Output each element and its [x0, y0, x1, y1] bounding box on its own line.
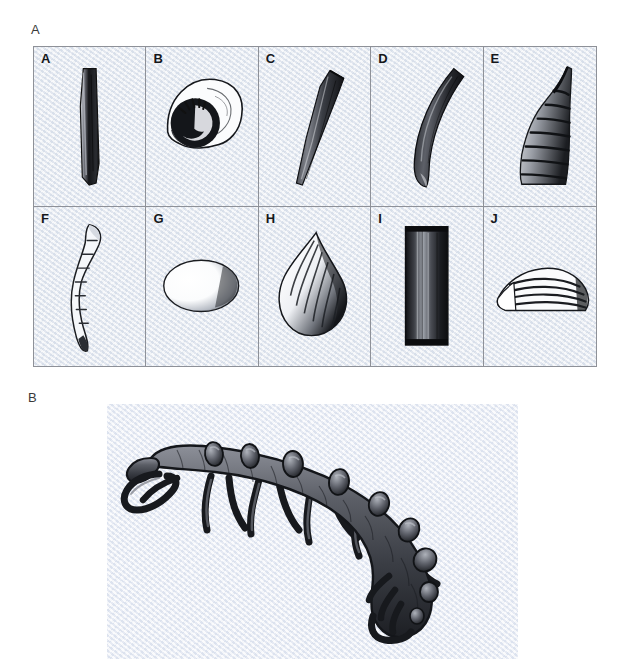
fossil-cell-letter-j: J — [491, 211, 498, 226]
fossil-cell-letter-b: B — [153, 51, 162, 66]
fossil-cell-j: J — [484, 207, 596, 367]
fossil-grid: A B — [34, 47, 596, 366]
fossil-cell-i: I — [371, 207, 483, 367]
lobopodian-reconstruction-panel — [107, 404, 518, 659]
fossil-cell-letter-c: C — [266, 51, 275, 66]
lobopodian-illustration — [107, 404, 518, 659]
fossil-cell-b: B — [146, 47, 258, 207]
fossil-cell-c: C — [259, 47, 371, 207]
fossil-illustration-d — [371, 47, 482, 205]
fossil-illustration-b — [146, 47, 257, 205]
fossil-illustration-c — [259, 47, 370, 205]
fossil-illustration-e — [484, 47, 596, 206]
fossil-illustration-g — [146, 207, 257, 365]
fossil-illustration-a — [34, 47, 145, 205]
figure-panel-label-a: A — [31, 22, 40, 37]
fossil-cell-h: H — [259, 207, 371, 367]
fossil-cell-g: G — [146, 207, 258, 367]
fossil-cell-letter-h: H — [266, 211, 275, 226]
fossil-cell-letter-f: F — [41, 211, 49, 226]
fossil-cell-letter-d: D — [378, 51, 387, 66]
fossil-cell-letter-g: G — [153, 211, 163, 226]
fossil-cell-a: A — [34, 47, 146, 207]
fossil-cell-f: F — [34, 207, 146, 367]
fossil-illustration-j — [484, 207, 596, 366]
fossil-cell-letter-a: A — [41, 51, 50, 66]
fossil-cell-e: E — [484, 47, 596, 207]
fossil-cell-d: D — [371, 47, 483, 207]
fossil-illustration-f — [34, 207, 145, 365]
fossil-cell-letter-e: E — [491, 51, 500, 66]
fossil-cell-letter-i: I — [378, 211, 382, 226]
figure-panel-label-b: B — [28, 390, 37, 405]
fossil-plate-panel: A B — [33, 46, 597, 367]
fossil-illustration-i — [371, 207, 482, 365]
fossil-illustration-h — [259, 207, 370, 365]
